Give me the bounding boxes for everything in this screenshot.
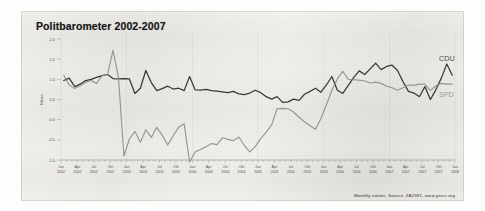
x-axis-tick-label-month: Jan	[452, 165, 458, 169]
x-axis-tick-label-year: 2008	[451, 170, 459, 174]
y-axis-tick-label: 2.0	[49, 37, 55, 42]
x-axis-tick-label-year: 2002	[106, 170, 114, 174]
y-axis-tick-label: 0.5	[49, 97, 55, 102]
x-axis-tick-label-year: 2002	[73, 170, 81, 174]
x-axis-tick-label-month: Apr	[337, 165, 343, 169]
x-axis-tick-label-month: Jul	[223, 165, 228, 169]
x-axis-tick-label-month: Okt	[370, 165, 376, 169]
chart-source-note: Monthly values. Source: ZA2391, www.gesi…	[354, 193, 455, 198]
x-axis-tick-label-month: Okt	[173, 165, 179, 169]
x-axis-tick-label-year: 2005	[254, 170, 262, 174]
x-axis-tick-label-month: Jan	[386, 165, 392, 169]
x-axis-tick-label-month: Apr	[272, 165, 278, 169]
x-axis-tick-label-month: Apr	[140, 165, 146, 169]
x-axis-tick-label-month: Apr	[206, 165, 212, 169]
x-axis-tick-label-month: Apr	[403, 165, 409, 169]
x-axis-tick-label-month: Okt	[239, 165, 245, 169]
x-axis-tick-label-year: 2007	[418, 170, 426, 174]
y-axis-tick-label: 0.0	[49, 117, 55, 122]
x-axis-tick-label-year: 2007	[435, 170, 443, 174]
x-axis-tick-label-year: 2005	[303, 170, 311, 174]
y-axis-tick-label: -1.0	[48, 158, 56, 163]
y-axis-tick-label: -0.5	[48, 137, 56, 142]
politbarometer-line-chart: 2.01.51.00.50.0-0.5-1.0MeanJan2002Apr200…	[21, 11, 464, 201]
x-axis-tick-label-month: Jan	[189, 165, 195, 169]
y-axis-title: Mean	[39, 94, 44, 105]
x-axis-tick-label-month: Okt	[436, 165, 442, 169]
x-axis-tick-label-year: 2007	[402, 170, 410, 174]
x-axis-tick-label-year: 2004	[188, 170, 196, 174]
x-axis-tick-label-year: 2004	[238, 170, 246, 174]
x-axis-tick-label-year: 2006	[320, 170, 328, 174]
x-axis-tick-label-year: 2004	[221, 170, 229, 174]
x-axis-tick-label-year: 2003	[139, 170, 147, 174]
series-label-cdu: CDU	[439, 54, 455, 63]
chart-plot-area: 2.01.51.00.50.0-0.5-1.0MeanJan2002Apr200…	[21, 11, 464, 201]
x-axis-tick-label-month: Okt	[107, 165, 113, 169]
x-axis-tick-label-year: 2002	[57, 170, 65, 174]
x-axis-tick-label-month: Jul	[92, 165, 97, 169]
x-axis-tick-label-year: 2003	[172, 170, 180, 174]
x-axis-tick-label-month: Jan	[321, 165, 327, 169]
x-axis-tick-label-year: 2002	[90, 170, 98, 174]
y-axis-tick-label: 1.5	[49, 57, 55, 62]
x-axis-tick-label-month: Jan	[124, 165, 130, 169]
y-axis-tick-label: 1.0	[49, 77, 55, 82]
x-axis-tick-label-month: Jul	[289, 165, 294, 169]
x-axis-tick-label-month: Jan	[255, 165, 261, 169]
x-axis-tick-label-year: 2006	[369, 170, 377, 174]
x-axis-tick-label-month: Jul	[157, 165, 162, 169]
x-axis-tick-label-year: 2006	[336, 170, 344, 174]
x-axis-tick-label-month: Apr	[75, 165, 81, 169]
x-axis-tick-label-year: 2003	[123, 170, 131, 174]
x-axis-tick-label-month: Jul	[354, 165, 359, 169]
series-label-spd: SPD	[439, 90, 454, 99]
x-axis-tick-label-month: Jan	[58, 165, 64, 169]
x-axis-tick-label-year: 2004	[205, 170, 213, 174]
x-axis-tick-label-year: 2003	[156, 170, 164, 174]
screenshot-root: Politbarometer 2002-2007 2.01.51.00.50.0…	[0, 0, 485, 211]
x-axis-tick-label-year: 2007	[385, 170, 393, 174]
x-axis-tick-label-month: Jul	[420, 165, 425, 169]
x-axis-tick-label-month: Okt	[304, 165, 310, 169]
x-axis-tick-label-year: 2005	[287, 170, 295, 174]
x-axis-tick-label-year: 2006	[353, 170, 361, 174]
x-axis-tick-label-year: 2005	[270, 170, 278, 174]
